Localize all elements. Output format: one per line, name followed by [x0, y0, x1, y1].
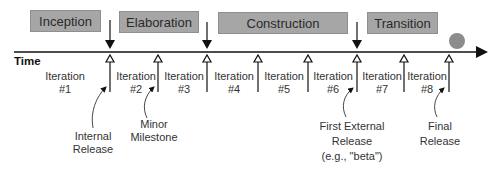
annotation-final-release: Final Release	[415, 119, 465, 149]
milestone-marker	[106, 55, 114, 92]
hollow-triangle-icon	[154, 55, 162, 62]
time-axis-label: Time	[14, 55, 41, 67]
iteration-1: Iteration#1	[45, 70, 85, 96]
hollow-triangle-icon	[353, 55, 361, 62]
iteration-8: Iteration#8	[407, 70, 447, 96]
hollow-triangle-icon	[445, 55, 453, 62]
phase-construction: Construction	[218, 12, 348, 34]
milestone-marker	[203, 55, 211, 92]
phase-inception: Inception	[30, 10, 101, 32]
curved-arrow-icon	[92, 87, 106, 128]
iteration-5: Iteration#5	[264, 70, 304, 96]
milestone-marker	[304, 55, 312, 92]
hollow-triangle-icon	[254, 55, 262, 62]
hollow-triangle-icon	[106, 55, 114, 62]
iteration-4: Iteration#4	[214, 70, 254, 96]
hollow-triangle-icon	[400, 55, 408, 62]
annotation-minor-milestone: Minor Milestone	[124, 118, 184, 144]
annotation-first-external-release: First External Release (e.g., "beta")	[316, 119, 388, 164]
hollow-triangle-icon	[304, 55, 312, 62]
down-arrow-icon	[352, 40, 362, 49]
end-circle-icon	[449, 33, 465, 49]
iteration-3: Iteration#3	[164, 70, 204, 96]
down-arrow-icon	[105, 40, 115, 49]
down-arrow-icon	[202, 40, 212, 49]
phase-iteration-diagram: Inception Elaboration Construction Trans…	[0, 0, 494, 171]
iteration-7: Iteration#7	[362, 70, 402, 96]
axis-arrow-icon	[476, 46, 488, 58]
annotation-internal-release: Internal Release	[68, 130, 118, 156]
milestone-marker	[353, 55, 361, 92]
milestone-marker	[254, 55, 262, 92]
time-axis	[14, 46, 488, 58]
iteration-6: Iteration#6	[313, 70, 353, 96]
hollow-triangle-icon	[203, 55, 211, 62]
iteration-2: Iteration#2	[116, 70, 156, 96]
phase-transition: Transition	[367, 12, 438, 34]
phase-elaboration: Elaboration	[119, 11, 199, 33]
